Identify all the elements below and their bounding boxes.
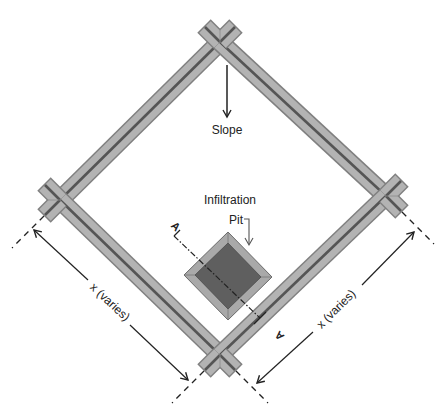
crossing-left <box>44 184 60 216</box>
dim-right-label: x (varies) <box>314 287 359 332</box>
slope-indicator: Slope <box>212 65 243 137</box>
section-a-right-label: A <box>272 329 286 343</box>
pit-floor <box>195 243 261 309</box>
crossing-right <box>386 180 402 212</box>
section-a-left-label: A <box>169 219 183 233</box>
berm-top-right <box>220 42 386 196</box>
pit-label: Pit <box>229 213 244 227</box>
dim-left-label: x (varies) <box>87 280 133 324</box>
crossing-top <box>204 26 236 42</box>
diagram-canvas: Slope Infiltration Pit A A x (varies) <box>0 0 448 416</box>
berm-top-left <box>60 42 220 200</box>
crossing-bottom <box>204 355 236 371</box>
infiltration-label: Infiltration <box>204 193 256 207</box>
slope-label: Slope <box>212 123 243 137</box>
